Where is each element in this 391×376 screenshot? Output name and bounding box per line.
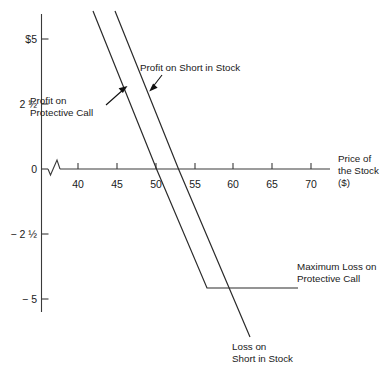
chart-canvas: $5 2 ½ 0 − 2 ½ − 5 40 45 50 55 60 65 70 (0, 0, 391, 376)
x-axis-break-icon (48, 160, 60, 175)
x-axis-title-line2: the Stock (338, 165, 379, 176)
y-tick-labels-group: $5 2 ½ 0 − 2 ½ − 5 (10, 33, 37, 305)
x-tick-label-60: 60 (227, 178, 239, 190)
annotation-loss-short-in-stock: Loss on Short in Stock (232, 341, 293, 364)
x-tick-label-40: 40 (72, 178, 84, 190)
x-axis-title: Price of the Stock ($) (338, 153, 379, 188)
series-short-in-stock (115, 11, 250, 337)
y-tick-label-0: 0 (31, 163, 37, 175)
x-tick-label-50: 50 (150, 178, 162, 190)
x-ticks-group (78, 163, 311, 169)
axes-group (42, 14, 331, 312)
x-tick-label-45: 45 (111, 178, 123, 190)
x-tick-labels-group: 40 45 50 55 60 65 70 (72, 178, 317, 190)
annotation-loss-short-line2: Short in Stock (232, 353, 293, 364)
x-axis-title-line1: Price of (338, 153, 371, 164)
x-tick-label-55: 55 (189, 178, 201, 190)
y-tick-label-5: $5 (25, 33, 37, 45)
x-axis-title-line3: ($) (338, 177, 350, 188)
annotation-maximum-loss: Maximum Loss on Protective Call (297, 261, 377, 284)
annotation-max-loss-line1: Maximum Loss on (297, 261, 377, 272)
arrow-head-short-in-stock (149, 84, 157, 92)
annotation-protective-call-line2: Protective Call (30, 107, 93, 118)
y-tick-label-minus2p5: − 2 ½ (10, 228, 37, 240)
annotation-protective-call-line1: Profit on (30, 95, 67, 106)
annotation-short-in-stock-line1: Profit on Short in Stock (140, 62, 240, 73)
annotation-profit-short-in-stock: Profit on Short in Stock (140, 62, 240, 92)
annotation-loss-short-line1: Loss on (232, 341, 266, 352)
leader-line-protective-call (106, 89, 124, 105)
annotation-max-loss-line2: Protective Call (297, 273, 360, 284)
payoff-diagram: $5 2 ½ 0 − 2 ½ − 5 40 45 50 55 60 65 70 (0, 0, 391, 376)
series-protective-call (93, 11, 298, 288)
annotation-profit-protective-call: Profit on Protective Call (30, 86, 128, 118)
x-tick-label-70: 70 (305, 178, 317, 190)
y-tick-label-minus5: − 5 (22, 293, 37, 305)
x-tick-label-65: 65 (266, 178, 278, 190)
